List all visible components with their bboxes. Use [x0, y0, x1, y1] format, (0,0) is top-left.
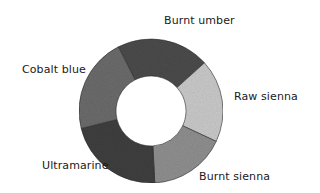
label-raw-sienna: Raw sienna [234, 90, 298, 103]
label-burnt-sienna: Burnt sienna [199, 170, 270, 183]
label-cobalt-blue: Cobalt blue [22, 63, 86, 76]
label-ultramarine: Ultramarine [42, 159, 109, 172]
segment-ultramarine [81, 119, 155, 183]
label-burnt-umber: Burnt umber [164, 14, 235, 27]
